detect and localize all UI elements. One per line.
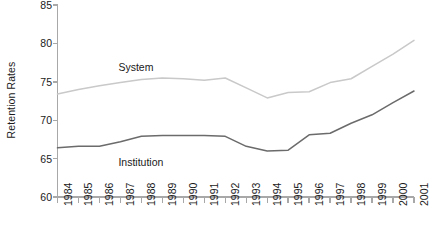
x-tick-label: 1997: [335, 183, 346, 206]
x-tick-label: 1992: [230, 183, 241, 206]
x-tick-label: 1988: [146, 183, 157, 206]
x-tick-label: 2001: [419, 183, 430, 206]
x-tick-label: 1996: [314, 183, 325, 206]
x-tick-label: 1998: [356, 183, 367, 206]
x-tick-label: 1993: [251, 183, 262, 206]
x-tick-label: 1987: [125, 183, 136, 206]
x-tick-label: 1985: [83, 183, 94, 206]
x-tick-label: 2000: [398, 183, 409, 206]
x-tick-label: 1999: [377, 183, 388, 206]
x-tick-label: 1994: [272, 183, 283, 206]
x-tick-label: 1989: [167, 183, 178, 206]
series-label-system: System: [118, 62, 153, 73]
x-tick-label: 1986: [104, 183, 115, 206]
x-tick-label: 1995: [293, 183, 304, 206]
x-tick-label: 1990: [188, 183, 199, 206]
x-tick-label: 1984: [63, 183, 74, 206]
x-tick-label: 1991: [209, 183, 220, 206]
series-label-institution: Institution: [118, 157, 163, 168]
